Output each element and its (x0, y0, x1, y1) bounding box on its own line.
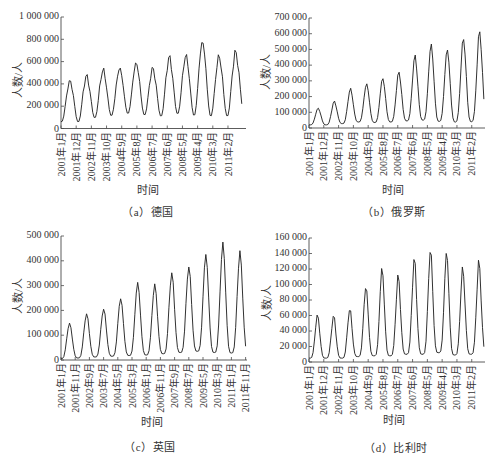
x-tick-label: 2010年3月 (211, 363, 223, 408)
y-tick-label: 20 000 (280, 340, 308, 351)
y-tick-label: 200 000 (275, 90, 308, 101)
y-tick-label: 300 000 (275, 74, 308, 85)
x-tick-label: 2009年5月 (197, 363, 209, 408)
x-tick-label: 2006年7月 (391, 365, 403, 410)
x-tick-label: 2011年2月 (222, 132, 234, 177)
x-tick-label: 2004年9月 (362, 365, 374, 410)
x-tick-label: 2003年10月 (100, 132, 112, 182)
x-tick-label: 2007年9月 (168, 363, 180, 408)
y-tick-label: 600 000 (27, 55, 60, 66)
x-tick-label: 2007年6月 (406, 131, 418, 176)
x-tick-label: 2005年8月 (130, 132, 142, 177)
x-tick-label: 2004年9月 (362, 131, 374, 176)
x-tick-label: 2004年5月 (111, 363, 123, 408)
series-line-c (61, 242, 246, 359)
x-tick-label: 2009年4月 (436, 131, 448, 176)
y-axis-title: 人数/人 (9, 278, 25, 314)
x-tick-label: 2003年7月 (97, 363, 109, 408)
x-tick-label: 2006年11月 (154, 363, 166, 413)
panel-caption-belgium: （d）比利时 (364, 439, 428, 455)
x-tick-label: 2001年12月 (317, 131, 329, 181)
y-tick-label: 800 000 (27, 33, 60, 44)
y-tick-label: 500 000 (27, 229, 60, 240)
x-axis-title: 时间 (382, 181, 404, 197)
x-tick-label: 2009年4月 (191, 132, 203, 177)
x-tick-label: 2008年5月 (421, 131, 433, 176)
y-tick-label: 400 000 (275, 58, 308, 69)
x-tick-label: 2002年11月 (85, 132, 97, 182)
panel-caption-germany: （a）德国 (122, 203, 173, 219)
x-tick-label: 2011年1月 (225, 363, 237, 408)
x-tick-label: 2002年11月 (332, 365, 344, 415)
y-tick-label: 140 000 (275, 247, 308, 258)
y-tick-label: 200 000 (27, 99, 60, 110)
x-tick-label: 2005年8月 (377, 131, 389, 176)
y-tick-label: 300 000 (27, 279, 60, 290)
y-tick-label: 400 000 (27, 77, 60, 88)
x-tick-label: 2010年3月 (450, 365, 462, 410)
chart-panel-c: 0100 000200 000300 000400 000500 0002001… (27, 229, 252, 412)
x-tick-label: 2008年7月 (182, 363, 194, 408)
x-tick-label: 2008年5月 (421, 365, 433, 410)
x-tick-label: 2003年10月 (347, 365, 359, 415)
x-tick-label: 2003年10月 (347, 131, 359, 181)
series-line-a (61, 43, 242, 122)
y-tick-label: 120 000 (275, 262, 308, 273)
series-line-b (309, 32, 484, 125)
y-axis-title: 人数/人 (258, 285, 274, 321)
x-tick-label: 2006年7月 (146, 132, 158, 177)
x-tick-label: 2010年3月 (206, 132, 218, 177)
x-tick-label: 2001年12月 (317, 365, 329, 415)
x-tick-label: 2005年3月 (126, 363, 138, 408)
x-axis-title: 时间 (383, 411, 405, 427)
x-tick-label: 2008年5月 (176, 132, 188, 177)
x-tick-label: 2001年1月 (303, 131, 315, 176)
y-tick-label: 100 000 (275, 278, 308, 289)
x-tick-label: 2002年11月 (332, 131, 344, 181)
x-tick-label: 2010年3月 (450, 131, 462, 176)
x-tick-label: 2001年11月 (69, 363, 81, 413)
y-tick-label: 80 000 (280, 293, 308, 304)
x-tick-label: 2006年7月 (391, 131, 403, 176)
x-tick-label: 2005年8月 (377, 365, 389, 410)
y-tick-label: 500 000 (275, 43, 308, 54)
x-tick-label: 2002年9月 (83, 363, 95, 408)
plots-canvas: 0200 000400 000600 000800 0001 000 00020… (0, 0, 496, 472)
x-tick-label: 2004年9月 (115, 132, 127, 177)
x-tick-label: 2011年11月 (239, 363, 251, 412)
y-tick-label: 200 000 (27, 304, 60, 315)
x-tick-label: 2009年4月 (436, 365, 448, 410)
y-tick-label: 160 000 (275, 231, 308, 242)
x-tick-label: 2011年2月 (465, 365, 477, 410)
chart-panel-b: 0100 000200 000300 000400 000500 000600 … (275, 11, 486, 181)
x-tick-label: 2001年1月 (55, 363, 67, 408)
x-tick-label: 2007年6月 (161, 132, 173, 177)
y-tick-label: 1 000 000 (19, 10, 59, 21)
panel-caption-russia: （b）俄罗斯 (362, 203, 426, 219)
y-tick-label: 40 000 (280, 324, 308, 335)
x-tick-label: 2011年2月 (465, 131, 477, 176)
x-tick-label: 2007年6月 (406, 365, 418, 410)
y-tick-label: 600 000 (275, 27, 308, 38)
y-tick-label: 100 000 (275, 106, 308, 117)
series-line-d (309, 253, 484, 359)
y-tick-label: 700 000 (275, 11, 308, 22)
figure-tourist-arrivals: 0200 000400 000600 000800 0001 000 00020… (0, 0, 496, 472)
chart-panel-d: 020 00040 00060 00080 000100 000120 0001… (275, 231, 486, 415)
x-axis-title: 时间 (137, 181, 159, 197)
y-tick-label: 400 000 (27, 254, 60, 265)
x-tick-label: 2001年1月 (303, 365, 315, 410)
x-tick-label: 2001年12月 (70, 132, 82, 182)
y-tick-label: 100 000 (27, 328, 60, 339)
chart-panel-a: 0200 000400 000600 000800 0001 000 00020… (19, 10, 246, 181)
panel-caption-uk: （c）英国 (124, 438, 175, 454)
x-tick-label: 2001年1月 (55, 132, 67, 177)
y-axis-title: 人数/人 (257, 54, 273, 90)
x-axis-title: 时间 (141, 413, 163, 429)
x-tick-label: 2006年1月 (140, 363, 152, 408)
y-axis-title: 人数/人 (9, 62, 25, 98)
y-tick-label: 60 000 (280, 309, 308, 320)
